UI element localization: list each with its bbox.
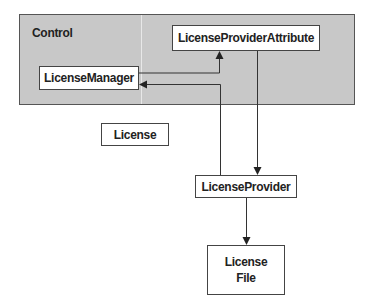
connector-lines — [0, 0, 372, 308]
edge-provider-to-manager — [146, 85, 221, 176]
arrowhead-up-icon — [216, 51, 224, 59]
arrowhead-left-icon — [139, 81, 147, 89]
edge-manager-to-attribute — [139, 57, 220, 73]
arrowhead-down-icon — [254, 167, 262, 175]
arrowhead-down-icon — [243, 237, 251, 245]
